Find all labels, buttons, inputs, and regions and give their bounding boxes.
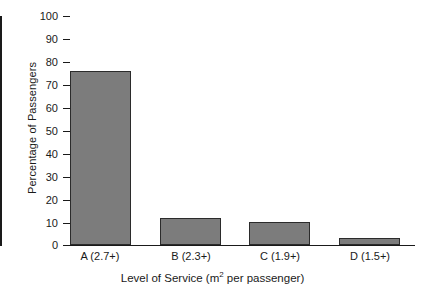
y-tick-label: 50 <box>28 126 58 137</box>
bar-chart: Percentage of Passengers 100 90 80 70 60… <box>0 0 425 301</box>
x-tick-label: D (1.5+) <box>315 250 425 263</box>
y-tick-label: 80 <box>28 57 58 68</box>
y-axis-tick <box>63 108 70 109</box>
y-axis-line <box>0 16 2 246</box>
bar-category-c <box>249 222 310 245</box>
y-tick-label: 10 <box>28 218 58 229</box>
y-tick-label: 60 <box>28 103 58 114</box>
y-tick-label: 100 <box>28 11 58 22</box>
y-tick-label: 90 <box>28 34 58 45</box>
bar-category-b <box>160 218 221 245</box>
y-tick-label: 70 <box>28 80 58 91</box>
bar-category-d <box>339 238 400 245</box>
y-axis-tick <box>63 85 70 86</box>
y-axis-tick <box>63 200 70 201</box>
y-tick-label: 40 <box>28 149 58 160</box>
y-axis-tick <box>63 39 70 40</box>
y-axis-tick <box>63 16 70 17</box>
x-axis-title-after: per passenger) <box>224 272 305 284</box>
y-axis-tick <box>63 154 70 155</box>
y-axis-tick <box>63 62 70 63</box>
y-tick-label: 20 <box>28 195 58 206</box>
y-axis-tick <box>63 131 70 132</box>
y-axis-tick <box>63 177 70 178</box>
y-tick-label: 30 <box>28 172 58 183</box>
bar-category-a <box>70 71 131 245</box>
x-axis-title: Level of Service (m2 per passenger) <box>0 272 425 284</box>
y-axis-tick <box>63 223 70 224</box>
x-axis-title-before: Level of Service (m <box>121 272 219 284</box>
